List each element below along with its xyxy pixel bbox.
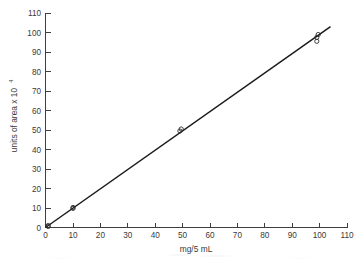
y-tick-label-110: 110 — [28, 9, 41, 18]
x-tick-label-50: 50 — [178, 231, 188, 240]
x-tick-label-20: 20 — [96, 231, 106, 240]
x-tick-label-70: 70 — [233, 231, 243, 240]
regression-fit-line — [46, 27, 331, 228]
y-tick-label-60: 60 — [32, 107, 42, 116]
x-tick-label-110: 110 — [340, 231, 353, 240]
x-tick-label-0: 0 — [43, 231, 48, 240]
y-axis-tick-labels: 0 10 20 30 40 50 60 70 80 90 100 110 — [27, 9, 41, 233]
y-tick-label-20: 20 — [32, 185, 42, 194]
y-tick-label-0: 0 — [36, 224, 41, 233]
data-point-markers — [46, 32, 320, 228]
calibration-curve-plot: 0 10 20 30 40 50 60 70 80 90 100 110 — [0, 0, 361, 262]
x-axis-title: mg/5 mL — [180, 244, 213, 254]
y-axis-title: units of area x 10 — [9, 88, 19, 153]
y-tick-label-100: 100 — [27, 29, 41, 38]
y-tick-label-10: 10 — [32, 204, 42, 213]
x-tick-label-80: 80 — [260, 231, 270, 240]
y-axis-title-exponent: 4 — [8, 79, 14, 83]
x-tick-label-100: 100 — [313, 231, 327, 240]
x-tick-label-30: 30 — [123, 231, 133, 240]
y-tick-label-80: 80 — [32, 68, 42, 77]
x-tick-label-40: 40 — [151, 231, 161, 240]
chart-figure: 0 10 20 30 40 50 60 70 80 90 100 110 — [0, 0, 361, 262]
y-tick-label-90: 90 — [32, 48, 42, 57]
x-axis-tick-labels: 0 10 20 30 40 50 60 70 80 90 100 110 — [43, 231, 354, 240]
y-tick-label-40: 40 — [32, 146, 42, 155]
y-axis-title-group: units of area x 10 4 — [8, 79, 19, 153]
y-tick-label-70: 70 — [32, 87, 42, 96]
y-axis-ticks — [46, 13, 51, 228]
x-tick-label-90: 90 — [288, 231, 298, 240]
x-tick-label-10: 10 — [68, 231, 78, 240]
y-tick-label-30: 30 — [32, 165, 42, 174]
y-tick-label-50: 50 — [32, 126, 42, 135]
x-tick-label-60: 60 — [205, 231, 215, 240]
x-axis-ticks — [46, 223, 348, 228]
